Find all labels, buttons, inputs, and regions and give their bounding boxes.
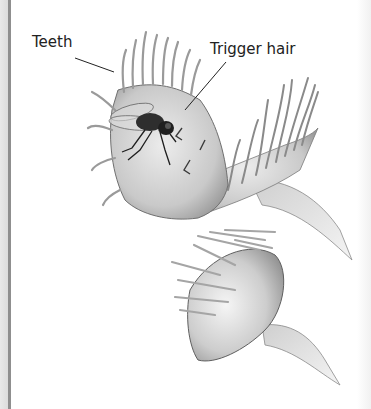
teeth-leader-line: [75, 58, 114, 72]
flytrap-illustration: [0, 0, 371, 409]
lower-trap-stem: [262, 325, 340, 385]
teeth-label: Teeth: [32, 33, 72, 51]
upper-trap-stem: [250, 180, 352, 260]
trigger-hair-leader-line: [185, 62, 226, 110]
lower-closed-trap: [172, 230, 340, 385]
trigger-hair-label: Trigger hair: [210, 40, 296, 58]
fly-eye: [165, 123, 171, 129]
